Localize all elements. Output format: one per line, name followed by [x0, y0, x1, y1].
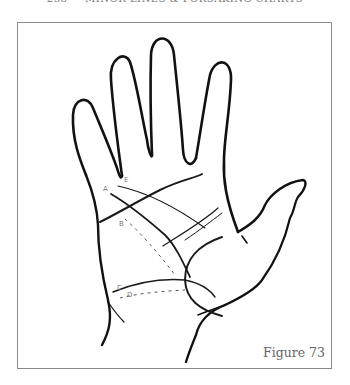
line-labels: A B C D E [103, 176, 132, 299]
hand-diagram: A B C D E [0, 0, 350, 385]
label-c: C [117, 284, 122, 292]
label-b: B [119, 220, 124, 228]
label-a: A [103, 185, 108, 193]
hand-outline [73, 39, 306, 363]
figure-caption: Figure 73 [263, 345, 325, 360]
palm-lines [100, 174, 222, 316]
label-d: D [127, 291, 132, 299]
label-e: E [124, 176, 128, 184]
